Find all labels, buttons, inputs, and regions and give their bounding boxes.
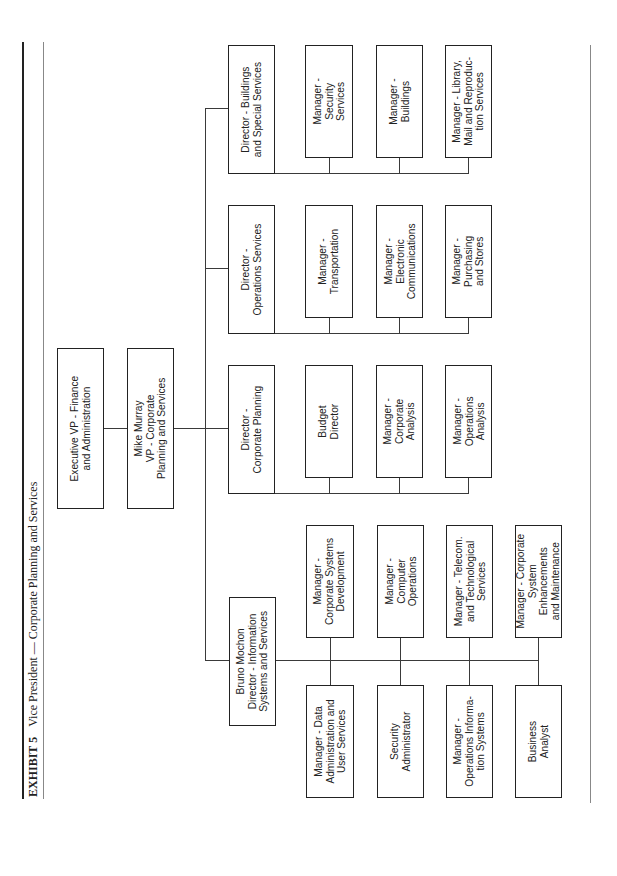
box-manager-buildings: Manager - Buildings — [376, 45, 423, 158]
box-director-info-systems: Bruno Mochon Director - Information Syst… — [229, 597, 276, 726]
drop-p2 — [399, 477, 400, 493]
box-business-analyst: Business Analyst — [515, 685, 562, 798]
connector-trunk-operations — [205, 268, 228, 269]
connector-execvp-vp — [103, 428, 127, 429]
box-director-operations: Director - Operations Services — [228, 205, 275, 334]
box-manager-transportation: Manager - Transportation — [305, 205, 353, 318]
exhibit-caption: Vice President — Corporate Planning and … — [26, 482, 40, 727]
box-executive-vp: Executive VP - Finance and Administratio… — [57, 348, 104, 509]
box-label: Executive VP - Finance and Administratio… — [69, 376, 92, 482]
box-label: Manager - Buildings — [388, 78, 411, 124]
box-manager-telecom: Manager - Telecom. and Technological Ser… — [446, 525, 493, 638]
box-vp-mike-murray: Mike Murray VP - Corporate Planning and … — [127, 348, 174, 509]
box-label: Director - Operations Services — [240, 224, 263, 316]
drop-i3 — [469, 637, 470, 685]
trunk-line — [205, 108, 206, 661]
drop-i1 — [330, 637, 331, 685]
box-manager-corp-system-enhancements: Manager - Corporate System Enhancements … — [515, 525, 562, 638]
drop-o3 — [468, 317, 469, 333]
box-label: Business Analyst — [527, 721, 550, 762]
box-director-planning: Director - Corporate Planning — [228, 365, 275, 494]
box-budget-director: Budget Director — [305, 365, 353, 478]
right-border — [590, 45, 591, 803]
drop-b3 — [468, 157, 469, 173]
box-security-administrator: Security Administrator — [377, 685, 424, 798]
box-manager-library: Manager - Library, Mail and Reproduc- ti… — [445, 45, 492, 158]
bus-buildings — [275, 173, 469, 174]
box-label: Manager - Corporate Analysis — [382, 398, 417, 444]
bus-operations — [275, 333, 469, 334]
left-border-thick — [22, 42, 24, 799]
box-label: Manager - Computer Operations — [383, 557, 418, 607]
drop-o2 — [399, 317, 400, 333]
box-manager-security-services: Manager - Security Services — [305, 45, 353, 158]
box-director-buildings: Director - Buildings and Special Service… — [228, 45, 275, 174]
drop-b2 — [399, 157, 400, 173]
box-manager-corp-systems-dev: Manager - Corporate Systems Development — [306, 525, 354, 638]
box-label: Manager - Telecom. and Technological Ser… — [452, 537, 487, 627]
exhibit-label: EXHIBIT 5 — [26, 737, 40, 797]
drop-b1 — [329, 157, 330, 173]
box-label: Manager - Operations Analysis — [451, 397, 486, 447]
drop-i4 — [538, 637, 539, 685]
box-label: Security Administrator — [389, 711, 412, 771]
bus-infosys — [276, 660, 539, 661]
exhibit-title: EXHIBIT 5Vice President — Corporate Plan… — [26, 482, 41, 797]
box-manager-corporate-analysis: Manager - Corporate Analysis — [376, 365, 423, 478]
box-label: Manager - Corporate Systems Development — [313, 538, 348, 625]
box-label: Manager - Purchasing and Stores — [451, 236, 486, 287]
box-label: Bruno Mochon Director - Information Syst… — [235, 611, 270, 712]
drop-o1 — [329, 317, 330, 333]
left-border-thin — [43, 42, 44, 799]
box-label: Mike Murray VP - Corporate Planning and … — [133, 378, 168, 479]
bus-planning — [275, 493, 469, 494]
drop-p3 — [468, 477, 469, 493]
box-label: Manager - Data Administration and User S… — [313, 699, 348, 783]
box-label: Manager - Security Services — [312, 78, 347, 124]
box-label: Manager - Transportation — [317, 229, 340, 294]
connector-vp-trunk — [174, 428, 205, 429]
box-manager-electronic-comms: Manager - Electronic Communications — [376, 205, 423, 318]
box-label: Manager - Electronic Communications — [382, 224, 417, 300]
connector-trunk-infosys — [205, 660, 229, 661]
box-manager-ops-info-systems: Manager - Operations Informa- tion Syste… — [446, 685, 493, 798]
box-label: Director - Corporate Planning — [240, 386, 263, 474]
box-label: Manager - Corporate System Enhancements … — [515, 534, 561, 629]
box-manager-operations-analysis: Manager - Operations Analysis — [445, 365, 492, 478]
drop-p1 — [329, 477, 330, 493]
connector-trunk-buildings — [205, 108, 228, 109]
box-label: Budget Director — [317, 404, 340, 440]
box-manager-computer-ops: Manager - Computer Operations — [377, 525, 424, 638]
drop-i2 — [400, 637, 401, 685]
box-label: Manager - Operations Informa- tion Syste… — [452, 696, 487, 787]
box-label: Manager - Library, Mail and Reproduc- ti… — [451, 57, 486, 146]
box-label: Director - Buildings and Special Service… — [240, 62, 263, 157]
box-manager-data-admin: Manager - Data Administration and User S… — [306, 685, 354, 798]
connector-trunk-planning — [205, 428, 228, 429]
box-manager-purchasing: Manager - Purchasing and Stores — [445, 205, 492, 318]
